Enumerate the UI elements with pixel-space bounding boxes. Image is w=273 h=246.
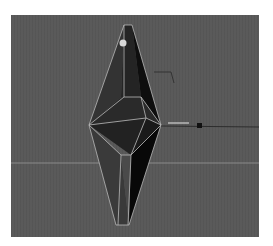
manipulator-axis-line bbox=[161, 126, 259, 127]
pivot-handle[interactable] bbox=[120, 40, 127, 47]
3d-viewport[interactable] bbox=[11, 15, 259, 237]
corner-marker bbox=[154, 72, 174, 83]
crystal-mesh[interactable] bbox=[89, 25, 161, 225]
manipulator-handle[interactable] bbox=[197, 123, 202, 128]
